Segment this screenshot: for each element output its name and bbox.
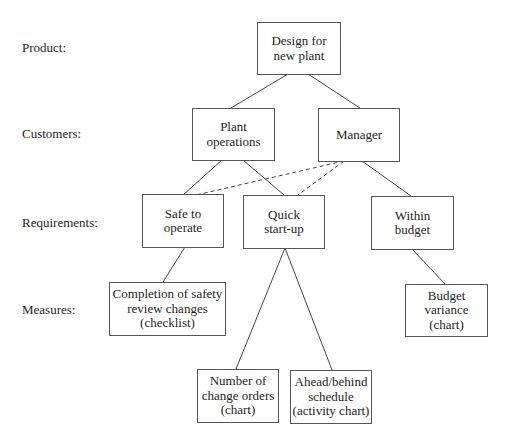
node-manager: Manager: [318, 108, 400, 162]
node-quick-start-up: Quick start-up: [243, 195, 325, 249]
row-label-measures: Measures:: [22, 302, 75, 317]
edge-design-plant-operations: [231, 74, 288, 108]
edge-manager-budget: [362, 161, 411, 196]
row-label-requirements: Requirements:: [22, 215, 98, 230]
edge-safe-completion: [163, 247, 185, 282]
edge-manager-safe-dashed: [196, 161, 344, 195]
edge-design-manager: [308, 74, 360, 108]
edge-budget-variance: [412, 249, 445, 284]
edge-quick-change-orders: [236, 248, 285, 369]
node-ahead-behind-schedule: Ahead/behind schedule (activity chart): [290, 370, 372, 424]
row-label-customers: Customers:: [22, 126, 81, 141]
edge-quick-ahead-behind: [285, 248, 332, 370]
node-completion-safety-review: Completion of safety review changes (che…: [109, 282, 226, 336]
node-budget-variance: Budget variance (chart): [405, 284, 488, 337]
node-within-budget: Within budget: [371, 196, 454, 250]
node-design-for-new-plant: Design for new plant: [257, 22, 341, 75]
node-number-of-change-orders: Number of change orders (chart): [197, 369, 279, 423]
row-label-product: Product:: [22, 40, 66, 55]
node-plant-operations: Plant operations: [192, 108, 275, 161]
node-safe-to-operate: Safe to operate: [142, 194, 224, 248]
edge-plant-operations-safe: [183, 160, 222, 195]
edge-plant-operations-quick: [243, 160, 284, 195]
